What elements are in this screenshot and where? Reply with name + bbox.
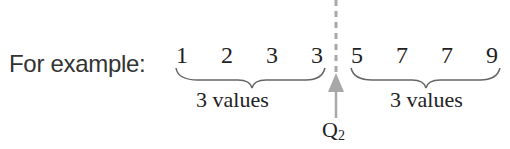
median-arrow-head-icon [328,73,344,92]
lower-group-caption: 3 values [196,87,269,113]
diagram-graphics [0,0,510,149]
upper-brace-icon [351,68,500,88]
q2-letter: Q [322,117,338,142]
lower-brace-icon [176,68,325,88]
q2-subscript: 2 [338,128,345,143]
upper-group-caption: 3 values [390,87,463,113]
median-q2-label: Q2 [322,117,345,144]
median-split-diagram: For example: 1 2 3 3 5 7 7 9 3 values 3 … [0,0,510,149]
